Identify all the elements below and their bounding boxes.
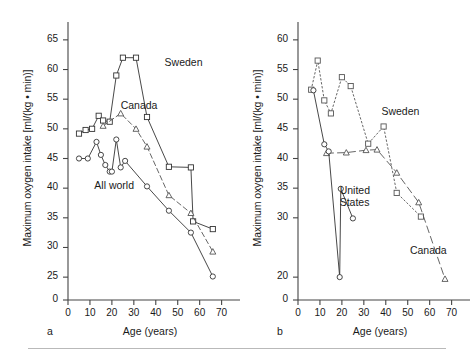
data-point-marker	[85, 156, 90, 161]
y-axis-title-a: Maximum oxygen intake [ml/(kg • min)]	[18, 18, 36, 298]
y-tick-label: 45	[266, 122, 288, 133]
y-axis-title-b: Maximum oxygen intake [ml/(kg • min)]	[248, 18, 266, 298]
y-tick-label: 40	[266, 152, 288, 163]
data-point-marker	[326, 149, 331, 154]
data-point-marker	[188, 210, 194, 215]
x-tick-label: 40	[146, 307, 166, 318]
x-tick-label: 20	[332, 307, 352, 318]
data-point-marker	[366, 141, 371, 146]
data-point-marker	[311, 88, 316, 93]
y-tick-label: 20	[266, 270, 288, 281]
data-point-marker	[107, 169, 112, 174]
data-point-marker	[210, 249, 216, 255]
data-point-marker	[363, 147, 369, 152]
data-point-marker	[418, 214, 423, 219]
data-point-marker	[96, 113, 101, 118]
series-annotation-line2: States	[340, 196, 370, 208]
data-point-marker	[90, 126, 95, 131]
series-annotation-united-states: UnitedStates	[340, 184, 370, 208]
x-tick-label: 0	[288, 307, 308, 318]
data-point-marker	[100, 123, 106, 128]
x-tick-label: 20	[102, 307, 122, 318]
x-tick-label: 10	[80, 307, 100, 318]
y-tick-label-zero: 0	[36, 293, 58, 304]
plot-area-b	[0, 0, 470, 355]
y-tick-label: 45	[36, 152, 58, 163]
data-point-marker	[381, 124, 386, 129]
y-tick-label: 60	[266, 33, 288, 44]
y-tick-label-zero: 0	[266, 293, 288, 304]
data-point-marker	[123, 158, 128, 163]
data-point-marker	[76, 156, 81, 161]
data-point-marker	[337, 275, 342, 280]
y-tick-label: 65	[36, 33, 58, 44]
series-annotation-sweden: Sweden	[381, 105, 419, 117]
y-tick-label: 55	[36, 92, 58, 103]
series-line-sweden	[79, 58, 213, 229]
x-tick-label: 70	[212, 307, 232, 318]
data-point-marker	[144, 114, 149, 119]
data-point-marker	[322, 98, 327, 103]
x-tick-label: 50	[398, 307, 418, 318]
y-tick-label: 60	[36, 63, 58, 74]
x-tick-label: 0	[58, 307, 78, 318]
series-line-sweden	[311, 61, 421, 217]
data-point-marker	[188, 230, 193, 235]
data-point-marker	[350, 216, 355, 221]
data-point-marker	[107, 119, 112, 124]
y-tick-label: 35	[266, 181, 288, 192]
data-point-marker	[374, 147, 380, 153]
data-point-marker	[188, 165, 193, 170]
series-line-united-states	[313, 90, 353, 277]
y-tick-label: 40	[36, 181, 58, 192]
data-point-marker	[94, 139, 99, 144]
x-axis-title-b: Age (years)	[300, 325, 460, 337]
data-point-marker	[416, 199, 422, 204]
data-point-marker	[109, 169, 114, 174]
data-point-marker	[191, 219, 196, 224]
series-line-all-world	[79, 140, 213, 277]
panel-label-b: b	[277, 325, 283, 337]
series-annotation-all-world: All world	[94, 179, 134, 191]
data-point-marker	[348, 84, 353, 89]
data-point-marker	[133, 126, 139, 131]
data-point-marker	[166, 164, 171, 169]
y-tick-label: 50	[266, 92, 288, 103]
x-tick-label: 40	[376, 307, 396, 318]
data-point-marker	[103, 162, 108, 167]
data-point-marker	[442, 276, 448, 282]
data-point-marker	[114, 73, 119, 78]
data-point-marker	[118, 110, 124, 116]
data-point-marker	[114, 137, 119, 142]
panel-label-a: a	[47, 325, 53, 337]
data-point-marker	[98, 152, 103, 157]
data-point-marker	[324, 150, 330, 155]
data-point-marker	[144, 144, 150, 150]
data-point-marker	[118, 165, 123, 170]
x-tick-label: 30	[354, 307, 374, 318]
data-point-marker	[166, 192, 172, 197]
data-point-marker	[339, 75, 344, 80]
x-axis-title-a: Age (years)	[70, 325, 230, 337]
data-point-marker	[338, 186, 343, 191]
y-tick-label: 30	[266, 211, 288, 222]
series-annotation-canada: Canada	[121, 99, 158, 111]
data-point-marker	[328, 111, 333, 116]
data-point-marker	[315, 58, 320, 63]
figure-bottom-rule	[28, 348, 446, 349]
series-annotation-sweden: Sweden	[165, 56, 203, 68]
x-tick-label: 60	[420, 307, 440, 318]
x-tick-label: 10	[310, 307, 330, 318]
data-point-marker	[394, 170, 400, 176]
y-tick-label: 30	[36, 240, 58, 251]
data-point-marker	[210, 227, 215, 232]
figure-container: Maximum oxygen intake [ml/(kg • min)] Ag…	[0, 0, 470, 355]
data-point-marker	[309, 87, 314, 92]
series-line-canada	[103, 113, 213, 251]
x-tick-label: 30	[124, 307, 144, 318]
data-point-marker	[76, 131, 81, 136]
series-line-canada	[327, 150, 446, 279]
data-point-marker	[343, 150, 349, 155]
data-point-marker	[144, 184, 149, 189]
data-point-marker	[83, 127, 88, 132]
